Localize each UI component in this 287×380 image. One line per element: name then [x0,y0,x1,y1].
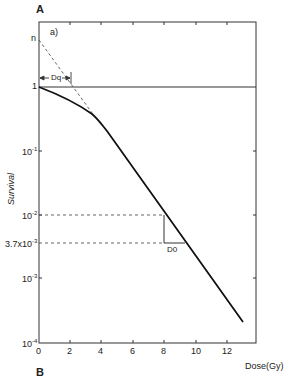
y-tick-1: 1 [32,82,37,91]
survival-chart [0,0,287,380]
y-ticks [39,151,256,278]
x-tick-0: 0 [36,347,41,356]
subplot-label: a) [50,28,58,37]
survival-curve [39,87,243,322]
panel-label-b: B [36,366,44,378]
y-axis-label: Survival [6,173,16,205]
x-tick-2: 2 [67,347,72,356]
x-tick-4: 4 [98,347,103,356]
x-tick-6: 6 [130,347,135,356]
x-axis-label: Dose(Gy) [245,362,284,371]
n-label: n [31,34,36,43]
y-tick-1e-2: 10-2 [22,210,37,221]
x-tick-8: 8 [161,347,166,356]
dq-label: Dq [51,74,61,82]
d0-triangle [164,215,185,243]
d0-label: D0 [167,246,177,254]
y-tick-1e-1: 10-1 [22,146,37,157]
x-tick-10: 10 [191,347,201,356]
y-tick-3.7e-3: 3.7x10-3 [5,238,37,249]
x-tick-12: 12 [222,347,232,356]
panel-label-a: A [36,3,44,15]
y-tick-1e-3: 10-3 [22,273,37,284]
